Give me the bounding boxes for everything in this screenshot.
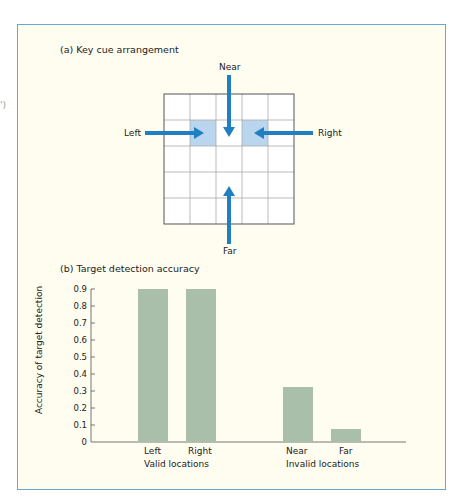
ytick: 0.6 (65, 335, 87, 345)
group-label-valid: Valid locations (144, 459, 209, 469)
xtick-right: Right (188, 446, 212, 456)
right-arrow-shaft (261, 131, 313, 135)
ytick: 0.8 (65, 301, 87, 311)
bar-far (331, 429, 361, 442)
bar-right (186, 289, 216, 442)
y-axis-label: Accuracy of target detection (34, 285, 44, 415)
ytick: 0.2 (65, 403, 87, 413)
panel-b-title: (b) Target detection accuracy (60, 263, 200, 274)
label-far: Far (223, 246, 237, 256)
xtick-near: Near (286, 446, 308, 456)
label-left: Left (124, 128, 141, 138)
left-arrow-shaft (145, 131, 197, 135)
label-right: Right (318, 128, 342, 138)
ytick: 0.1 (65, 420, 87, 430)
label-near: Near (219, 62, 241, 72)
far-arrow-shaft (227, 192, 231, 244)
bar-near (283, 387, 313, 442)
ytick: 0 (65, 437, 87, 447)
ytick: 0.7 (65, 318, 87, 328)
xtick-far: Far (339, 446, 353, 456)
ytick: 0.9 (65, 284, 87, 294)
ytick: 0.3 (65, 386, 87, 396)
near-arrow-shaft (227, 75, 231, 132)
ytick: 0.5 (65, 352, 87, 362)
ytick: 0.4 (65, 369, 87, 379)
bar-left (138, 289, 168, 442)
group-label-invalid: Invalid locations (286, 459, 359, 469)
xtick-left: Left (144, 446, 161, 456)
bars (138, 289, 361, 442)
